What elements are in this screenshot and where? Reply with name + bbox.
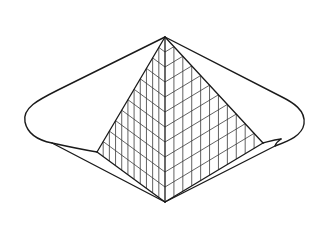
pyramid-right-base [165,143,263,202]
pyramid-lattice [103,47,254,198]
left-basin-rim [52,143,97,152]
lattice-diagonal-line [159,47,165,52]
lattice-diagonal-line [109,131,165,172]
lattice-diagonal-line [146,68,165,82]
pyramid-left-base [97,152,165,202]
figure-canvas: Glass pyramid line drawing Isometric lin… [0,0,323,229]
lattice-diagonal-line [165,124,245,172]
lattice-diagonal-line [134,89,165,112]
lattice-diagonal-line [165,66,192,82]
lattice-diagonal-line [165,47,174,52]
lattice-diagonal-line [165,85,210,112]
lattice-diagonal-line [165,104,227,142]
pyramid-drawing [0,0,323,229]
